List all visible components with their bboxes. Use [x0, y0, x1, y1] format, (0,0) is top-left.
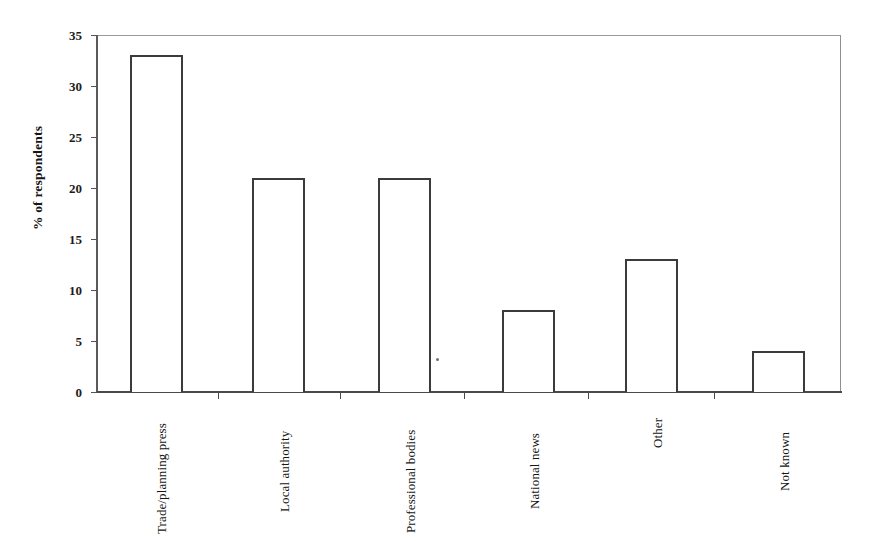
- x-label-not-known: Not known: [777, 432, 793, 491]
- plot-area-frame: [97, 35, 841, 392]
- y-tick-label-5-wrap: 5: [48, 335, 82, 348]
- y-tick-label-25-wrap: 25: [48, 131, 82, 144]
- x-tick-1: [218, 392, 219, 399]
- x-tick-5: [714, 392, 715, 399]
- y-tick-20: [91, 188, 97, 189]
- bar-chart-figure: % of respondents 35 30 25 20 15 10 5 0: [0, 0, 882, 541]
- x-tick-2: [340, 392, 341, 399]
- y-tick-label-10-wrap: 10: [48, 284, 82, 297]
- y-tick-0: [91, 392, 97, 393]
- y-tick-label-35: 35: [48, 29, 82, 42]
- y-tick-25: [91, 137, 97, 138]
- y-tick-label-20: 20: [48, 182, 82, 195]
- bar-professional-bodies: [378, 178, 431, 392]
- x-label-national-news: National news: [527, 433, 543, 509]
- bar-local-authority: [252, 178, 305, 392]
- y-tick-label-10: 10: [48, 284, 82, 297]
- bar-other: [625, 259, 678, 392]
- bar-trade-planning-press: [130, 55, 183, 392]
- y-tick-label-35-wrap: 35: [48, 29, 82, 42]
- y-tick-label-30: 30: [48, 80, 82, 93]
- x-tick-4: [588, 392, 589, 399]
- y-tick-label-15: 15: [48, 233, 82, 246]
- y-tick-35: [91, 35, 97, 36]
- y-tick-10: [91, 290, 97, 291]
- y-axis-line: [96, 35, 98, 392]
- x-axis-line: [97, 391, 842, 393]
- x-label-local-authority: Local authority: [277, 431, 293, 512]
- bar-national-news: [502, 310, 555, 392]
- y-tick-label-30-wrap: 30: [48, 80, 82, 93]
- scan-artifact-speck: [436, 358, 439, 361]
- x-label-trade-planning-press: Trade/planning press: [154, 423, 170, 534]
- y-tick-30: [91, 86, 97, 87]
- y-tick-label-20-wrap: 20: [48, 182, 82, 195]
- y-tick-label-0: 0: [48, 386, 82, 399]
- x-label-other: Other: [650, 418, 666, 448]
- y-tick-label-5: 5: [48, 335, 82, 348]
- x-label-professional-bodies: Professional bodies: [403, 430, 419, 533]
- y-tick-5: [91, 341, 97, 342]
- bar-not-known: [752, 351, 805, 392]
- y-tick-label-25: 25: [48, 131, 82, 144]
- y-tick-label-15-wrap: 15: [48, 233, 82, 246]
- y-tick-15: [91, 239, 97, 240]
- x-tick-3: [464, 392, 465, 399]
- y-tick-label-0-wrap: 0: [48, 386, 82, 399]
- y-axis-title: % of respondents: [30, 103, 46, 253]
